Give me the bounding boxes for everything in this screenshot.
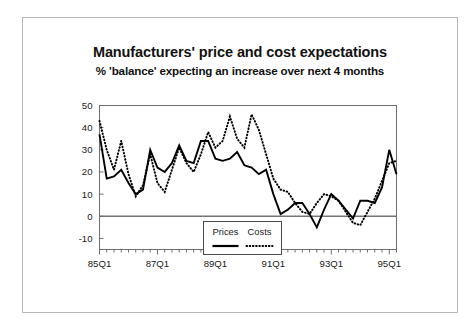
line-chart-svg: -1001020304050 85Q187Q189Q191Q193Q195Q1 … (0, 0, 476, 331)
y-axis-tick-label: 40 (82, 122, 93, 133)
series-line-prices (100, 134, 397, 227)
y-axis-tick-label: 20 (82, 166, 93, 177)
x-axis-tick-label: 85Q1 (88, 258, 111, 269)
plot-area-wrapper: -1001020304050 85Q187Q189Q191Q193Q195Q1 … (0, 0, 476, 331)
x-axis-labels: 85Q187Q189Q191Q193Q195Q1 (88, 258, 401, 269)
x-axis-tick-label: 93Q1 (320, 258, 343, 269)
legend-label-costs: Costs (248, 226, 272, 237)
y-axis-tick-label: 10 (82, 189, 93, 200)
x-axis-tick-label: 95Q1 (378, 258, 401, 269)
legend-label-prices: Prices (212, 226, 238, 237)
y-axis-tick-label: -10 (79, 233, 93, 244)
x-axis-tick-label: 87Q1 (146, 258, 169, 269)
chart-legend: PricesCosts (204, 222, 282, 255)
chart-figure: Manufacturers' price and cost expectatio… (0, 0, 476, 331)
series-line-costs (100, 114, 397, 225)
data-series-group (100, 114, 397, 227)
x-axis-tick-label: 91Q1 (262, 258, 285, 269)
y-axis-tick-label: 30 (82, 144, 93, 155)
y-axis-tick-label: 50 (82, 100, 93, 111)
y-axis-tick-label: 0 (87, 211, 92, 222)
x-axis-tick-label: 89Q1 (204, 258, 227, 269)
y-axis-labels: -1001020304050 (79, 100, 93, 244)
